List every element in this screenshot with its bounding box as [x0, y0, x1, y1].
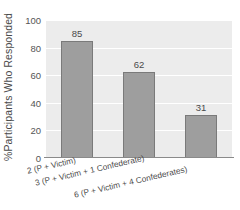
y-axis-tick-labels: 020406080100	[16, 14, 44, 160]
bar	[61, 41, 93, 158]
bar	[123, 72, 155, 158]
y-axis-tick-label: 80	[30, 42, 41, 53]
y-axis-tick-label: 20	[30, 125, 41, 136]
bar-chart-figure: %Participants Who Responded 020406080100…	[0, 0, 240, 210]
y-axis-tick-label: 100	[25, 15, 41, 26]
bar-value-label: 85	[72, 28, 83, 39]
bar-value-label: 31	[196, 102, 207, 113]
y-axis-title-container: %Participants Who Responded	[0, 12, 16, 162]
bar	[185, 115, 217, 158]
bar-value-label: 62	[134, 59, 145, 70]
x-axis-category-labels: 2 (P + Victim)3 (P + Victim + 1 Confeder…	[0, 158, 240, 210]
y-axis-title: %Participants Who Responded	[2, 13, 14, 161]
gridline	[46, 20, 232, 21]
y-axis-tick-label: 60	[30, 70, 41, 81]
plot-area: 856231	[46, 20, 232, 158]
y-axis-tick-label: 40	[30, 97, 41, 108]
